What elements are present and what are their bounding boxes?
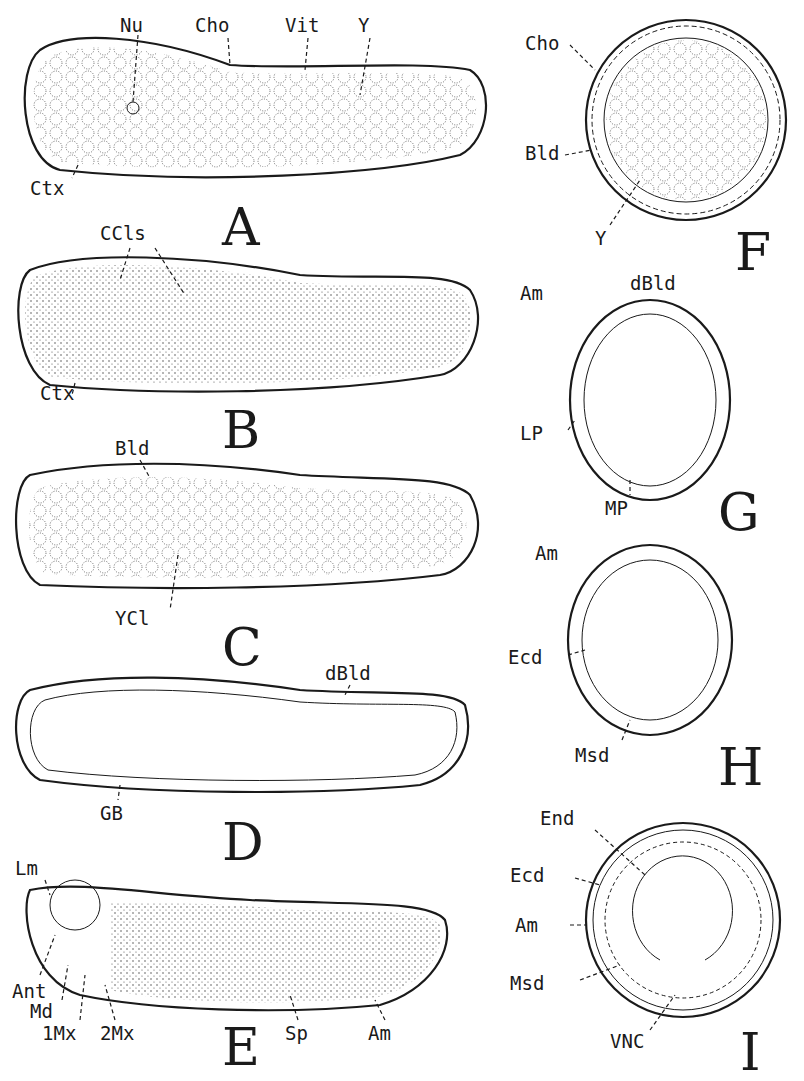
panel-e: Lm Ant Md 1Mx 2Mx Sp Am E [12,857,447,1077]
panel-d: dBld GB D [16,662,468,872]
panel-letter-d: D [222,812,264,872]
panel-letter-b: B [222,400,260,460]
label-am: Am [520,282,543,304]
label-ctx: Ctx [30,177,64,199]
panel-b: CCls Ctx B [18,222,478,460]
panel-f: Cho Bld Y F [525,20,786,282]
panel-a: Nu Cho Vit Y Ctx A [25,14,486,257]
label-vit: Vit [285,14,319,36]
label-cho: Cho [525,32,559,54]
label-bld: Bld [525,142,559,164]
panel-i-outline [586,823,780,1017]
label-am: Am [368,1022,391,1044]
label-nu: Nu [120,14,143,36]
label-lm: Lm [15,857,38,879]
label-1mx: 1Mx [42,1022,76,1044]
label-dbld: dBld [630,272,676,294]
label-ecd: Ecd [510,864,544,886]
label-mp: MP [605,497,628,519]
label-gb: GB [100,802,123,824]
label-bld: Bld [115,437,149,459]
panel-h-outline [568,545,732,735]
label-ctx: Ctx [40,382,74,404]
label-am: Am [515,914,538,936]
panel-letter-f: F [735,222,771,282]
label-2mx: 2Mx [100,1022,134,1044]
label-md: Md [30,1000,53,1022]
panel-letter-e: E [222,1017,260,1077]
panel-g: Am dBld LP MP G [520,272,760,542]
label-vnc: VNC [610,1030,644,1052]
embryo-figure: Nu Cho Vit Y Ctx A CCls Ctx B Bld YCl C … [0,0,804,1081]
panel-letter-i: I [740,1022,761,1081]
label-y: Y [595,227,607,249]
label-msd: Msd [510,972,544,994]
label-am: Am [535,542,558,564]
label-lp: LP [520,422,543,444]
label-ecd: Ecd [508,646,542,668]
label-dbld: dBld [325,662,371,684]
panel-c: Bld YCl C [16,437,478,677]
panel-g-outline [570,300,730,500]
label-ccls: CCls [100,222,146,244]
label-ycl: YCl [115,607,149,629]
panel-i: End Ecd Am Msd VNC I [510,807,780,1081]
panel-h: Am Ecd Msd H [508,542,763,797]
label-msd: Msd [575,744,609,766]
panel-letter-g: G [718,482,760,542]
label-y: Y [358,14,370,36]
panel-letter-h: H [718,737,763,797]
label-end: End [540,807,574,829]
panel-letter-a: A [221,197,261,257]
label-cho: Cho [195,14,229,36]
label-ant: Ant [12,980,46,1002]
label-sp: Sp [285,1022,308,1044]
panel-letter-c: C [222,617,262,677]
